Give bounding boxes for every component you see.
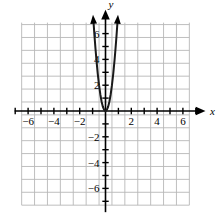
x-tick-label: 2 [129, 115, 135, 127]
x-tick-label: −6 [22, 115, 34, 127]
x-axis-arrow-icon [196, 107, 206, 116]
x-axis-tick-labels: −6−4−2246 [22, 115, 186, 127]
y-tick-label: −2 [88, 131, 100, 143]
x-axis-label: x [209, 105, 215, 117]
parabola-right-arrow-icon [114, 15, 121, 24]
y-tick-label: −4 [88, 157, 100, 169]
y-tick-label: −6 [88, 182, 100, 194]
x-tick-label: −4 [48, 115, 60, 127]
parabola-left-arrow-icon [90, 15, 97, 24]
x-tick-label: −2 [74, 115, 86, 127]
graph-figure: −6−4−2246 642−2−4−6 x y [0, 0, 224, 217]
y-axis-arrow-icon [101, 10, 110, 20]
x-tick-label: 6 [180, 115, 186, 127]
y-axis-label: y [108, 0, 114, 10]
coordinate-plane-svg: −6−4−2246 642−2−4−6 x y [0, 0, 224, 217]
x-tick-label: 4 [154, 115, 160, 127]
